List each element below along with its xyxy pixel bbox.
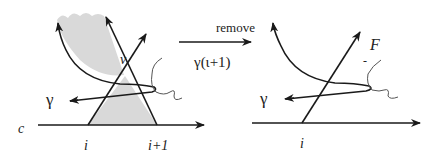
gamma-arrowhead-right	[285, 98, 294, 99]
right-panel: γ F - i	[252, 23, 420, 151]
squiggle-right	[368, 60, 399, 98]
label-i-plus-1: i+1	[148, 138, 168, 153]
label-minus: -	[363, 54, 367, 68]
diagram: γ v c i i+1 remove γ(ι+1) γ F - i	[0, 0, 440, 157]
label-c: c	[18, 121, 25, 136]
shaded-region-upper	[57, 13, 124, 75]
curve-top-arrowhead	[58, 23, 59, 30]
label-gamma-left: γ	[45, 90, 54, 109]
label-F: F	[369, 36, 380, 53]
label-i-left: i	[84, 138, 88, 153]
label-v: v	[120, 52, 127, 67]
label-remove: remove	[216, 20, 255, 35]
label-gamma-i-plus-1: γ(ι+1)	[193, 54, 231, 71]
label-i-right: i	[300, 136, 304, 151]
left-panel: γ v c i i+1	[18, 13, 204, 153]
label-gamma-right: γ	[259, 89, 268, 108]
gamma-arrowhead	[70, 100, 78, 101]
curve-top-arrowhead-right	[273, 23, 274, 30]
gamma-curve-right	[273, 24, 371, 99]
squiggle	[152, 58, 183, 100]
transition: remove γ(ι+1)	[179, 20, 255, 71]
rising-line-right	[302, 32, 360, 123]
